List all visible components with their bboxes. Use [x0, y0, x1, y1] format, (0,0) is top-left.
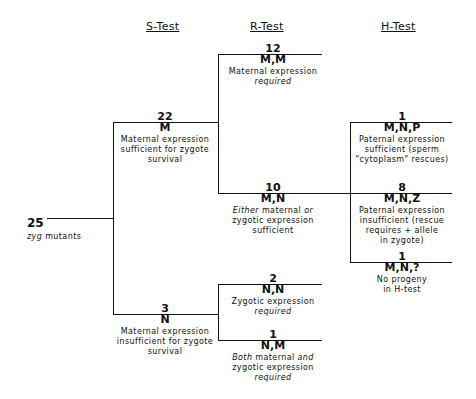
- node-desc-3: survival: [121, 155, 210, 165]
- node-code: M: [121, 122, 210, 133]
- r-node-10: 10 M,N Either maternal or zygotic expres…: [232, 182, 314, 236]
- node-desc-2: required: [232, 307, 315, 317]
- node-desc-3: survival: [117, 347, 213, 357]
- node-code: M,N,P: [355, 122, 448, 133]
- node-desc-1: Either maternal or: [232, 206, 314, 216]
- r-node-12: 12 M,M Maternal expression required: [229, 43, 318, 87]
- desc-mid: maternal: [252, 353, 297, 362]
- root-label-rest: mutants: [42, 232, 81, 241]
- node-code: M,N,Z: [359, 193, 445, 204]
- node-desc-2: zygotic expression: [232, 363, 314, 373]
- node-code: M,N,?: [377, 262, 427, 273]
- node-code: N,N: [232, 284, 315, 295]
- node-desc-3: required: [232, 373, 314, 383]
- root-node: 25 zyg mutants: [27, 212, 81, 242]
- desc-italic-or: or: [304, 206, 313, 215]
- s-test-header: S-Test: [146, 20, 179, 33]
- node-desc-1: No progeny: [377, 275, 427, 285]
- desc-italic-and: and: [298, 353, 314, 362]
- node-desc-1: Both maternal and: [232, 353, 314, 363]
- r-node-2: 2 N,N Zygotic expression required: [232, 273, 315, 317]
- node-desc-1: Maternal expression: [117, 327, 213, 337]
- s-test-branch: [113, 122, 114, 315]
- root-label-italic: zyg: [27, 232, 42, 241]
- desc-mid: maternal: [259, 206, 304, 215]
- node-desc-2: zygotic expression: [232, 216, 314, 226]
- desc-italic-both: Both: [232, 353, 252, 362]
- node-code: N,M: [232, 340, 314, 351]
- node-code: M,N: [232, 193, 314, 204]
- h-node-mnz: 8 M,N,Z Paternal expression insufficient…: [359, 182, 445, 246]
- r-test-branch-lower: [218, 284, 219, 341]
- node-desc-1: Zygotic expression: [232, 297, 315, 307]
- desc-italic-either: Either: [233, 206, 259, 215]
- node-code: N: [117, 314, 213, 325]
- node-desc-2: insufficient (rescue: [359, 216, 445, 226]
- node-desc-2: sufficient (sperm: [355, 145, 448, 155]
- h-node-mnp: 1 M,N,P Paternal expression sufficient (…: [355, 111, 448, 165]
- root-count: 25: [27, 216, 44, 230]
- r-test-header: R-Test: [250, 20, 284, 33]
- node-desc-4: in zygote): [359, 236, 445, 246]
- node-desc-2: sufficient for zygote: [121, 145, 210, 155]
- node-desc-2: in H-test: [377, 285, 427, 295]
- node-desc-2: insufficient for zygote: [117, 337, 213, 347]
- h-node-unknown: 1 M,N,? No progeny in H-test: [377, 251, 427, 295]
- node-desc-1: Paternal expression: [359, 206, 445, 216]
- h-test-branch: [350, 122, 351, 263]
- node-desc-1: Paternal expression: [355, 135, 448, 145]
- node-desc-1: Maternal expression: [121, 135, 210, 145]
- h-test-header: H-Test: [381, 20, 416, 33]
- r-test-branch-upper: [218, 54, 219, 194]
- node-desc-2: required: [229, 77, 318, 87]
- root-label: zyg mutants: [27, 232, 81, 242]
- r-node-1: 1 N,M Both maternal and zygotic expressi…: [232, 329, 314, 383]
- node-desc-3: sufficient: [232, 226, 314, 236]
- s-node-22: 22 M Maternal expression sufficient for …: [121, 111, 210, 165]
- s-node-3: 3 N Maternal expression insufficient for…: [117, 303, 213, 357]
- node-desc-3: "cytoplasm" rescues): [355, 155, 448, 165]
- node-desc-3: requires + allele: [359, 226, 445, 236]
- node-code: M,M: [229, 54, 318, 65]
- node-desc-1: Maternal expression: [229, 67, 318, 77]
